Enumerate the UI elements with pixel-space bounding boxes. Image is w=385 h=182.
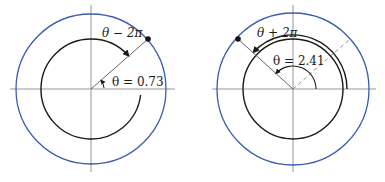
arc-label: θ + 2π xyxy=(257,26,299,40)
terminal-point xyxy=(145,36,151,42)
arc-label: θ − 2π xyxy=(102,26,144,40)
theta-arc xyxy=(276,66,316,89)
theta-label: θ = 2.41 xyxy=(273,54,325,68)
terminal-point xyxy=(235,36,241,42)
left-diagram: θ − 2π θ = 0.73 xyxy=(10,5,175,172)
right-diagram: θ + 2π θ = 2.41 xyxy=(212,5,376,172)
polar-angle-diagrams: θ − 2π θ = 0.73 θ + 2π θ = 2.41 xyxy=(0,0,385,182)
theta-label: θ = 0.73 xyxy=(112,75,164,89)
theta-arc xyxy=(101,80,104,88)
